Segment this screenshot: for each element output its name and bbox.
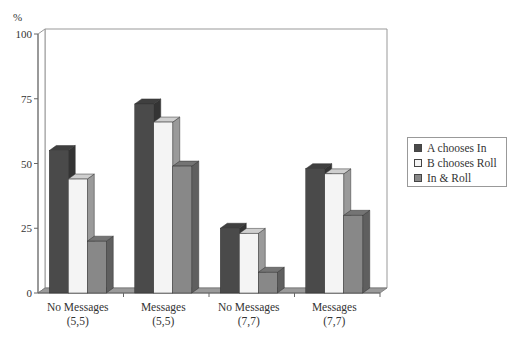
legend-label: In & Roll <box>427 172 471 184</box>
legend-item-in-and-roll: In & Roll <box>414 170 506 185</box>
y-tick-label: 50 <box>21 158 33 170</box>
legend-swatch-icon <box>414 159 422 167</box>
bar <box>87 236 113 293</box>
y-tick-label: 0 <box>27 287 33 299</box>
legend-item-b-chooses-roll: B chooses Roll <box>414 155 506 170</box>
legend-swatch-icon <box>414 174 422 182</box>
bar <box>173 161 199 293</box>
legend-label: B chooses Roll <box>427 157 497 169</box>
x-category-label: No Messages <box>218 301 280 314</box>
bar <box>258 267 284 293</box>
bar <box>344 210 370 293</box>
x-axis-labels: No Messages(5,5)Messages(5,5)No Messages… <box>47 301 357 328</box>
legend-item-a-chooses-in: A chooses In <box>414 140 506 155</box>
x-category-label: Messages <box>141 301 186 314</box>
x-category-label: (5,5) <box>67 315 89 328</box>
x-category-label: (7,7) <box>323 315 345 328</box>
legend-label: A chooses In <box>427 142 486 154</box>
legend-swatch-icon <box>414 144 422 152</box>
y-tick-label: 25 <box>21 222 33 234</box>
y-axis-unit: % <box>13 11 22 23</box>
legend: A chooses In B chooses Roll In & Roll <box>407 137 507 187</box>
x-category-label: No Messages <box>47 301 109 314</box>
x-category-label: (5,5) <box>152 315 174 328</box>
x-category-label: (7,7) <box>238 315 260 328</box>
y-tick-label: 75 <box>21 93 33 105</box>
x-category-label: Messages <box>312 301 357 314</box>
y-tick-label: 100 <box>16 28 33 40</box>
